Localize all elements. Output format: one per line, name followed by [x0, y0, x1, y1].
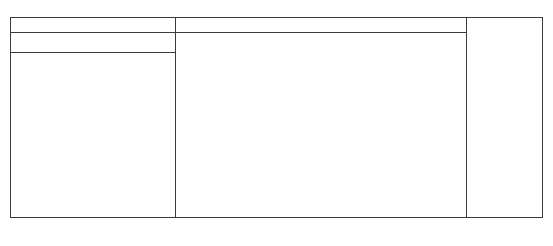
y-axis-canvas [467, 18, 543, 219]
plot-frame [10, 17, 543, 218]
block-plot-canvas [176, 18, 466, 219]
udec-plot-window [0, 0, 553, 246]
top-cutoff-text [8, 0, 428, 11]
job-title-row [11, 18, 175, 33]
plot-area [176, 18, 466, 219]
version-row [11, 33, 175, 53]
legend-panel [11, 53, 175, 219]
y-axis-panel [467, 18, 543, 219]
